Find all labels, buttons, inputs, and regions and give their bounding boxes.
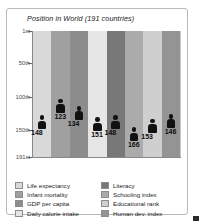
y-axis-tick-label: 191st	[16, 154, 30, 160]
person-body	[38, 121, 46, 130]
person-body	[130, 133, 138, 142]
bar-series: 148123134151148166153146	[33, 31, 180, 157]
legend-label: Literacy	[113, 182, 135, 189]
person-head	[77, 106, 82, 111]
person-icon	[33, 115, 51, 129]
bar-value-label: 151	[91, 131, 103, 138]
bar-column[interactable]: 148	[33, 31, 51, 157]
person-body	[93, 123, 101, 132]
legend-item[interactable]: Literacy	[101, 181, 162, 189]
y-axis-tick-label: 100th	[15, 94, 30, 100]
legend-item[interactable]: Life expectancy	[15, 181, 79, 189]
x-axis-line	[32, 157, 181, 158]
bar-value-label: 148	[105, 129, 117, 136]
bar-column[interactable]: 153	[143, 31, 161, 157]
bar-value-label: 148	[31, 129, 43, 136]
person-head	[113, 115, 118, 120]
bar-column[interactable]: 123	[51, 31, 69, 157]
legend-label: Schooling index	[113, 191, 157, 198]
bar-value-label: 146	[165, 128, 177, 135]
person-body	[75, 111, 83, 120]
legend-swatch	[101, 182, 109, 189]
y-axis-tick-label: 50th	[19, 60, 30, 66]
person-body	[111, 121, 119, 130]
person-head	[132, 127, 137, 132]
legend-item[interactable]: Daily calorie intake	[15, 209, 79, 217]
person-head	[58, 99, 63, 104]
bar-column[interactable]: 146	[162, 31, 180, 157]
bar-value-label: 166	[128, 141, 140, 148]
bar-value-label: 153	[141, 133, 153, 140]
person-body	[56, 104, 64, 113]
legend-item[interactable]: Educational rank	[101, 200, 162, 208]
legend-label: Life expectancy	[27, 182, 70, 189]
person-head	[40, 115, 45, 120]
person-body	[148, 124, 156, 133]
y-axis-tick-label: 1st	[22, 28, 30, 34]
legend-item[interactable]: Infant mortality	[15, 190, 79, 198]
person-icon	[70, 106, 88, 120]
legend-swatch	[101, 200, 109, 207]
legend-swatch	[101, 210, 109, 217]
chart-title: Position in World (191 countries)	[27, 14, 134, 23]
person-head	[95, 117, 100, 122]
person-body	[167, 119, 175, 128]
page-edge	[197, 0, 200, 223]
legend-item[interactable]: Schooling index	[101, 190, 162, 198]
person-head	[150, 119, 155, 124]
legend-label: Daily calorie intake	[27, 210, 79, 217]
legend-left: Life expectancyInfant mortalityGDP per c…	[15, 181, 79, 217]
legend-item[interactable]: Human dev. index	[101, 209, 162, 217]
chart-panel: Position in World (191 countries) 1st50t…	[0, 0, 200, 223]
legend-swatch	[15, 191, 23, 198]
bar-column[interactable]: 151	[88, 31, 106, 157]
bar-column[interactable]: 148	[107, 31, 125, 157]
corner-marker-icon	[193, 216, 199, 221]
legend-label: Infant mortality	[27, 191, 68, 198]
legend-right: LiteracySchooling indexEducational rankH…	[101, 181, 162, 217]
bar-value-label: 123	[54, 113, 66, 120]
legend-swatch	[15, 182, 23, 189]
person-head	[169, 114, 174, 119]
person-icon	[162, 114, 180, 128]
y-axis-tick-label: 150th	[15, 127, 30, 133]
bar-value-label: 134	[68, 120, 80, 127]
legend-item[interactable]: GDP per capita	[15, 200, 79, 208]
legend-swatch	[101, 191, 109, 198]
legend-label: Educational rank	[113, 200, 159, 207]
legend-swatch	[15, 200, 23, 207]
person-icon	[143, 119, 161, 133]
plot-right-edge	[180, 31, 181, 158]
person-icon	[107, 115, 125, 129]
legend-label: GDP per capita	[27, 200, 69, 207]
person-icon	[51, 99, 69, 113]
bar-column[interactable]: 134	[70, 31, 88, 157]
legend-label: Human dev. index	[113, 210, 162, 217]
legend-swatch	[15, 210, 23, 217]
